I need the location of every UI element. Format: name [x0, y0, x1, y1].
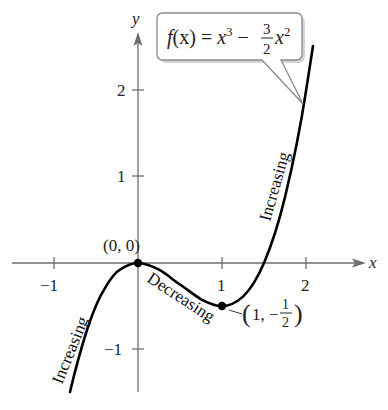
function-graph: −1 1 2 2 1 −1 x y (0, 0) ( 1, − 1 2 ) In…	[0, 0, 388, 410]
x-tick-label-neg1: −1	[40, 276, 58, 295]
y-tick-label-1: 1	[117, 167, 126, 186]
region-label-decreasing: Decreasing	[144, 268, 219, 326]
callout-minus: −	[233, 26, 249, 48]
y-tick-label-neg1: −1	[104, 340, 122, 359]
x-tick-label-2: 2	[301, 276, 310, 295]
point-origin	[134, 259, 142, 267]
callout-x: x	[216, 26, 226, 48]
point-min-label: ( 1, − 1 2 )	[242, 297, 303, 330]
callout-frac-den: 2	[263, 41, 271, 57]
point-origin-label: (0, 0)	[103, 236, 140, 255]
function-callout: f(x) = x3 − 3 2 x2	[157, 13, 305, 104]
point-min-num: 1	[282, 297, 289, 312]
point-min-leader	[229, 310, 242, 314]
region-label-left-increasing: Increasing	[48, 313, 92, 386]
y-tick-label-2: 2	[117, 81, 126, 100]
point-min-text: 1, −	[252, 305, 279, 324]
callout-frac-num: 3	[263, 21, 271, 37]
callout-paren: (x) =	[173, 26, 218, 49]
callout-x2-base: x	[274, 26, 284, 48]
point-min-close-paren: )	[294, 299, 303, 328]
point-min-den: 2	[282, 315, 289, 330]
callout-exp2: 2	[284, 24, 291, 39]
callout-formula: f(x) = x3 −	[167, 24, 249, 49]
point-local-min	[218, 302, 226, 310]
point-min-open-paren: (	[242, 299, 251, 328]
y-axis-label: y	[130, 9, 140, 28]
x-axis-label: x	[368, 253, 377, 272]
x-tick-label-1: 1	[217, 276, 226, 295]
